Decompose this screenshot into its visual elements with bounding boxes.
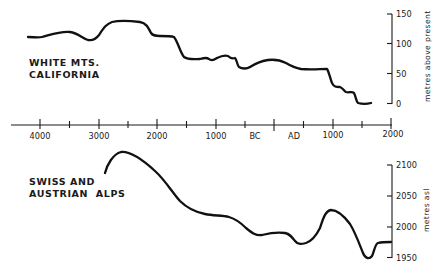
time-axis: 4000 3000 2000 1000 BC AD 1000 2000 [11, 118, 403, 141]
x-label-2000ad: 2000 [383, 129, 404, 139]
x-label-2000bc: 2000 [147, 131, 168, 141]
x-label-bc: BC [249, 131, 260, 141]
white-mts-label: WHITE MTS. CALIFORNIA [29, 57, 100, 80]
white-mts-tick-0: 0 [396, 99, 401, 109]
white-mts-label-line1: WHITE MTS. [29, 57, 100, 68]
alps-tick-1950: 1950 [396, 253, 417, 263]
alps-tick-2000: 2000 [396, 222, 417, 232]
white-mts-tick-100: 100 [396, 39, 412, 49]
alps-label-line1: SWISS AND [29, 176, 95, 187]
alps-tick-2050: 2050 [396, 191, 417, 201]
alps-tick-2100: 2100 [396, 160, 417, 170]
alps-curve [105, 152, 391, 258]
white-mts-tick-50: 50 [396, 69, 406, 79]
alps-label-line2: AUSTRIAN ALPS [29, 188, 125, 199]
x-label-ad: AD [288, 131, 300, 141]
x-label-1000bc: 1000 [206, 131, 227, 141]
white-mts-panel: WHITE MTS. CALIFORNIA 150 100 50 0 metre… [28, 9, 432, 109]
white-mts-tick-150: 150 [396, 9, 412, 19]
white-mts-y-axis: 150 100 50 0 metres above present [387, 9, 432, 109]
alps-y-axis: 2100 2050 2000 1950 metres asl [387, 160, 431, 263]
tree-line-chart: WHITE MTS. CALIFORNIA 150 100 50 0 metre… [0, 0, 447, 277]
alps-panel: SWISS AND AUSTRIAN ALPS 2100 2050 2000 1… [29, 152, 431, 263]
white-mts-label-line2: CALIFORNIA [29, 69, 100, 80]
alps-y-title: metres asl [422, 188, 431, 232]
alps-label: SWISS AND AUSTRIAN ALPS [29, 176, 125, 199]
x-label-3000bc: 3000 [89, 131, 110, 141]
x-label-4000bc: 4000 [30, 131, 51, 141]
white-mts-y-title: metres above present [423, 10, 432, 102]
x-label-1000ad: 1000 [323, 130, 344, 140]
